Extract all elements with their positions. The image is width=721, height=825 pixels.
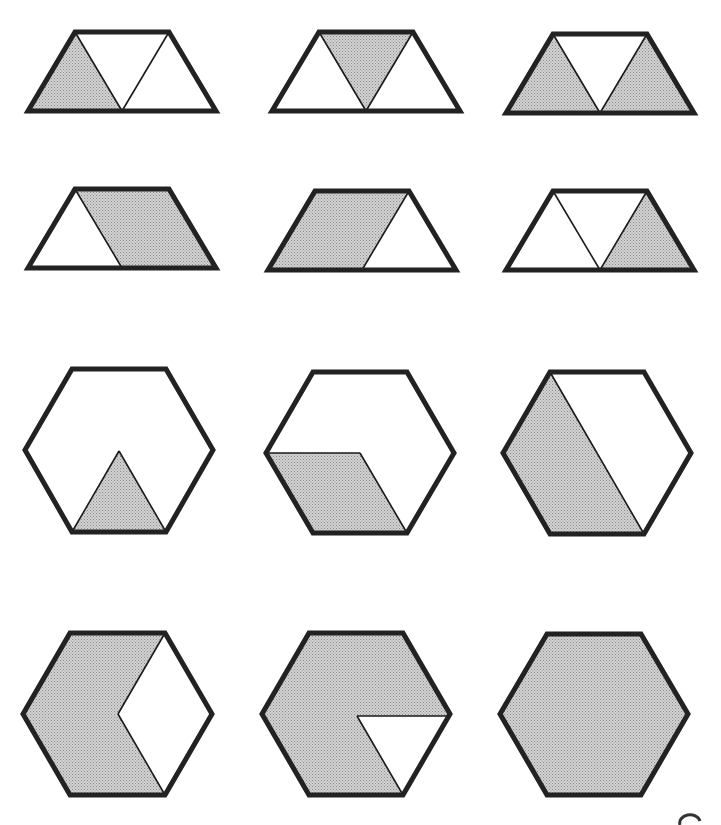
hexagon-h2 [266, 372, 454, 533]
trapezoid-t4 [28, 189, 216, 268]
hexagon-h3 [503, 372, 691, 534]
hexagon-h4 [23, 633, 212, 795]
trapezoid-t2 [272, 32, 460, 111]
corner-mark [680, 815, 700, 825]
hexagon-h5 [262, 633, 450, 795]
hexagon-h6 [500, 634, 688, 795]
trapezoid-t6 [506, 191, 694, 270]
trapezoid-t5 [268, 191, 456, 270]
trapezoid-t3 [506, 34, 694, 113]
trapezoid-t1 [28, 32, 216, 111]
hexagon-h1 [25, 369, 213, 532]
fraction-diagram [0, 0, 721, 825]
